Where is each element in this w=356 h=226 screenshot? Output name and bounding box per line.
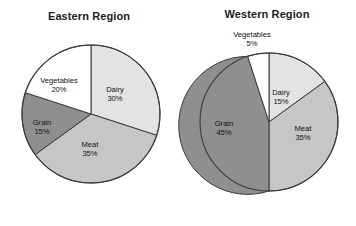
chart-panel-eastern: Eastern Region <box>0 0 178 226</box>
chart-panel-western: Western Region <box>178 0 356 226</box>
chart-title-western: Western Region <box>178 8 356 20</box>
chart-title-eastern: Eastern Region <box>0 10 178 22</box>
chart-canvas: Eastern Region Dairy 30% Meat 35% Grain … <box>0 0 356 226</box>
